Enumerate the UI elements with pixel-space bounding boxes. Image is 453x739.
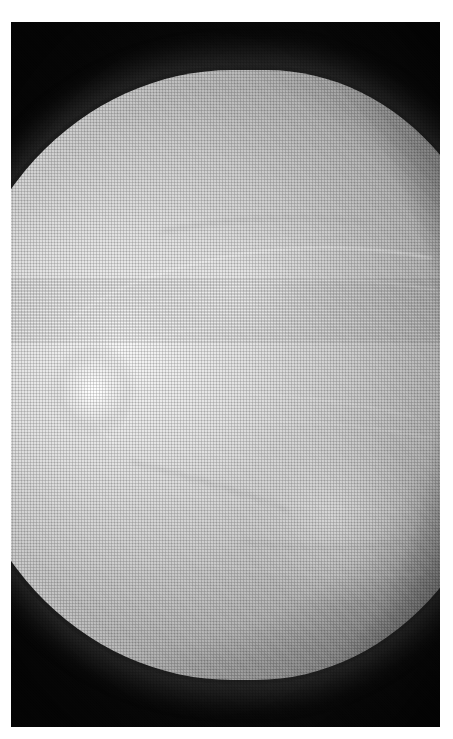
figure-page [0, 0, 453, 739]
central-glandular-density [239, 420, 425, 608]
mammogram-film-plate [11, 22, 440, 727]
nipple-marker [79, 378, 109, 404]
upper-glandular-density [131, 218, 341, 368]
